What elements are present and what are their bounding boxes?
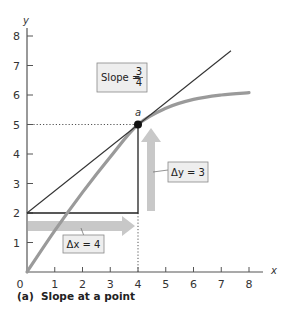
y-tick-label: 3 bbox=[13, 178, 20, 191]
x-tick-label: 3 bbox=[107, 278, 114, 290]
x-tick-label: 6 bbox=[190, 278, 197, 290]
delta-y-label: Δy = 3 bbox=[171, 167, 205, 178]
x-tick-label: 5 bbox=[162, 278, 169, 290]
delta-arrows bbox=[28, 128, 161, 236]
y-tick-label: 8 bbox=[13, 30, 20, 43]
y-tick-label: 7 bbox=[13, 60, 20, 73]
delta-x-arrow bbox=[28, 216, 135, 236]
x-tick-label: 2 bbox=[79, 278, 86, 290]
point-a-label: a bbox=[135, 107, 141, 118]
x-tick-label: 8 bbox=[246, 278, 253, 290]
delta-x-label: Δx = 4 bbox=[67, 239, 101, 250]
slope-box-label: Slope = bbox=[101, 72, 140, 83]
y-tick-label: 6 bbox=[13, 89, 20, 102]
x-tick-label: 0 bbox=[17, 278, 24, 290]
delta-y-arrow bbox=[141, 128, 161, 211]
y-axis-label: y bbox=[22, 15, 30, 26]
y-tick-label: 4 bbox=[13, 148, 20, 161]
x-tick-label: 7 bbox=[218, 278, 225, 290]
y-tick-label: 2 bbox=[13, 207, 20, 220]
point-a-marker bbox=[134, 121, 142, 129]
x-tick-label: 1 bbox=[51, 278, 58, 290]
y-tick-label: 5 bbox=[13, 119, 20, 132]
x-tick-label: 4 bbox=[135, 278, 142, 290]
slope-numerator: 3 bbox=[136, 66, 142, 77]
chart-caption: (a) Slope at a point bbox=[17, 290, 135, 302]
slope-denominator: 4 bbox=[136, 77, 142, 88]
slope-chart: xy 01234567812345678 a Slope = 34Δy = 3Δ… bbox=[0, 0, 292, 290]
delta-y-leader bbox=[153, 170, 168, 172]
y-tick-label: 1 bbox=[13, 237, 20, 250]
x-axis-label: x bbox=[270, 265, 277, 276]
